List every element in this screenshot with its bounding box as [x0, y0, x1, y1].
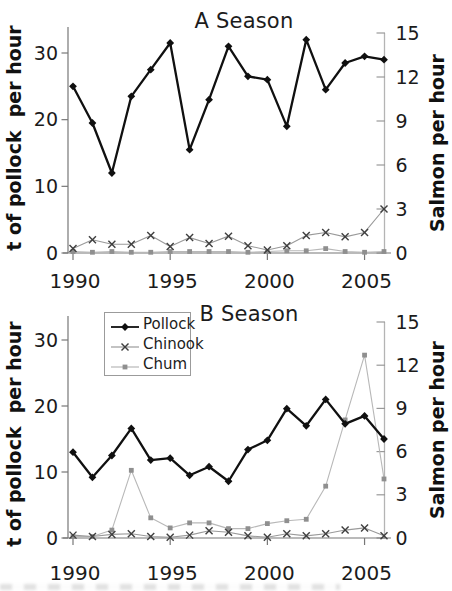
svg-text:30: 30: [34, 42, 58, 64]
svg-text:20: 20: [34, 108, 58, 130]
svg-text:2000: 2000: [244, 269, 295, 293]
legend-label: Chinook: [143, 335, 204, 353]
legend-item-chum: Chum: [110, 355, 190, 373]
svg-text:1995: 1995: [147, 269, 198, 293]
a-left-axis-label: t of pollock per hour: [3, 7, 25, 269]
svg-text:6: 6: [396, 154, 408, 176]
a-season-plot: 0369121501020301990199520002005: [0, 0, 452, 295]
svg-text:1995: 1995: [147, 561, 198, 585]
b-right-axis-label: Salmon per hour: [426, 319, 448, 541]
svg-text:3: 3: [396, 198, 408, 220]
legend-item-chinook: Chinook: [110, 335, 190, 353]
square-marker-icon: [110, 358, 140, 370]
legend-label: Pollock: [143, 315, 195, 333]
svg-text:0: 0: [396, 527, 408, 549]
chart-b-season: 0369121501020301990199520002005: [0, 295, 452, 591]
svg-text:0: 0: [396, 242, 408, 264]
legend-label: Chum: [143, 355, 187, 373]
svg-text:2005: 2005: [341, 269, 392, 293]
svg-text:0: 0: [46, 527, 58, 549]
legend-item-pollock: Pollock: [110, 315, 190, 333]
a-right-axis-label: Salmon per hour: [426, 32, 448, 254]
svg-text:9: 9: [396, 110, 408, 132]
svg-text:15: 15: [396, 311, 420, 333]
svg-text:10: 10: [34, 175, 58, 197]
x-marker-icon: [110, 338, 140, 350]
chart-a-season: 0369121501020301990199520002005: [0, 0, 452, 295]
svg-text:12: 12: [396, 66, 420, 88]
svg-text:0: 0: [46, 242, 58, 264]
svg-text:20: 20: [34, 395, 58, 417]
scan-artifact: [0, 584, 340, 590]
svg-text:3: 3: [396, 483, 408, 505]
b-left-axis-label: t of pollock per hour: [3, 303, 25, 565]
svg-text:10: 10: [34, 461, 58, 483]
svg-text:12: 12: [396, 354, 420, 376]
diamond-marker-icon: [110, 318, 140, 330]
a-season-title: A Season: [134, 9, 354, 33]
svg-text:9: 9: [396, 397, 408, 419]
b-season-plot: 0369121501020301990199520002005: [0, 295, 452, 591]
figure: 0369121501020301990199520002005 03691215…: [0, 0, 452, 591]
svg-text:2000: 2000: [244, 561, 295, 585]
svg-text:15: 15: [396, 22, 420, 44]
svg-text:1990: 1990: [50, 269, 101, 293]
svg-text:6: 6: [396, 440, 408, 462]
svg-text:1990: 1990: [50, 561, 101, 585]
svg-text:30: 30: [34, 329, 58, 351]
svg-text:2005: 2005: [341, 561, 392, 585]
legend: Pollock Chinook Chum: [104, 312, 191, 376]
